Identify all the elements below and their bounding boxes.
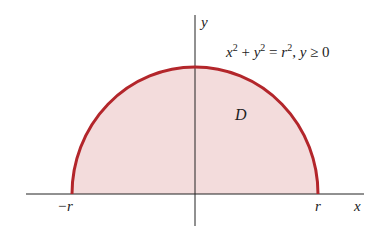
x-axis-label: x: [353, 198, 361, 214]
tick-label-r: r: [315, 198, 321, 214]
region-label: D: [234, 106, 247, 123]
semicircle-diagram: y x −r r D x2 + y2 = r2, y ≥ 0: [0, 0, 385, 239]
equation-label: x2 + y2 = r2, y ≥ 0: [225, 42, 330, 60]
tick-label-neg-r: −r: [57, 198, 73, 214]
y-axis-label: y: [199, 14, 208, 30]
